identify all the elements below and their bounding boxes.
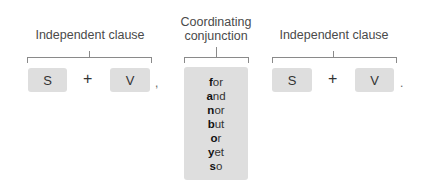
conjunction-or: or (211, 131, 222, 145)
right-clause-bracket (272, 57, 397, 63)
left-verb-box: V (110, 68, 150, 92)
conjunction-bracket (184, 57, 249, 63)
comma: , (155, 76, 158, 90)
left-plus-sign: + (83, 70, 92, 88)
conjunction-label-line2: conjunction (166, 29, 266, 43)
conjunction-nor: nor (207, 103, 224, 117)
right-subject-box: S (272, 68, 312, 92)
conjunction-label-line1: Coordinating (166, 15, 266, 29)
conjunction-for: for (209, 75, 223, 89)
conjunction-but: but (208, 117, 225, 131)
conjunction-so: so (210, 159, 223, 173)
conjunction-and: and (206, 89, 225, 103)
conjunction-list-box: for and nor but or yet so (184, 67, 248, 180)
left-clause-bracket (27, 57, 152, 63)
left-subject-box: S (28, 68, 67, 92)
right-clause-label: Independent clause (264, 28, 404, 42)
right-plus-sign: + (328, 70, 337, 88)
left-clause-label: Independent clause (20, 28, 160, 42)
conjunction-bracket-stem (216, 47, 217, 57)
conjunction-yet: yet (208, 145, 224, 159)
right-verb-box: V (355, 68, 394, 92)
period: . (400, 76, 403, 90)
